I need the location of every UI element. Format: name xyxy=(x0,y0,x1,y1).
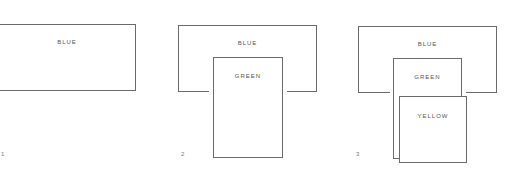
green-box: GREEN xyxy=(213,57,283,158)
green-label: GREEN xyxy=(214,73,282,79)
panel-number: 2 xyxy=(181,151,184,157)
yellow-box: YELLOW xyxy=(399,96,467,163)
panel-number: 1 xyxy=(1,151,4,157)
blue-label: BLUE xyxy=(179,40,316,46)
blue-box: BLUE xyxy=(0,24,136,91)
blue-label: BLUE xyxy=(0,39,135,45)
panel-number: 3 xyxy=(356,151,359,157)
yellow-label: YELLOW xyxy=(400,113,466,119)
blue-label: BLUE xyxy=(359,41,496,47)
green-label: GREEN xyxy=(394,74,461,80)
